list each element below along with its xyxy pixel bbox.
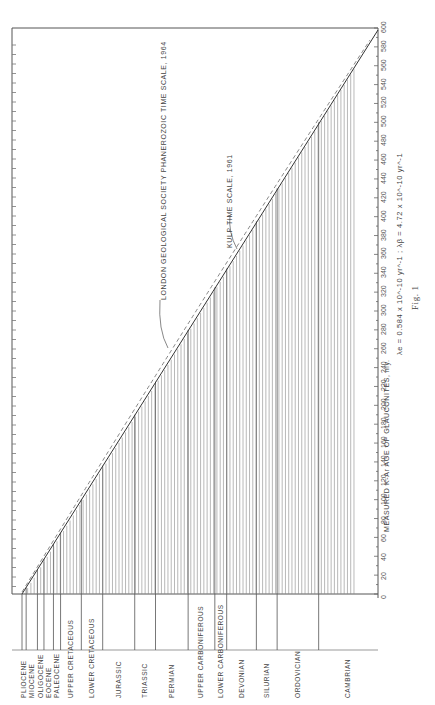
period-label: PLIOCENE: [20, 660, 27, 698]
x-tick-label: 100: [380, 493, 387, 505]
period-label: OLIGOCENE: [37, 654, 44, 698]
london-leader: [160, 300, 168, 348]
x-axis: [374, 28, 378, 598]
x-tick-label: 60: [380, 535, 387, 543]
y-axis-ticks: [12, 45, 16, 587]
x-tick-label: 580: [380, 40, 387, 52]
x-tick-label: 80: [380, 516, 387, 524]
period-label: LOWER CARBONIFEROUS: [217, 604, 224, 698]
period-label: EOCENE: [45, 667, 52, 698]
figure-caption: Fig. 1: [410, 285, 420, 310]
x-tick-label: 460: [380, 153, 387, 165]
x-tick-label: 220: [380, 380, 387, 392]
period-label: ORDOVICIAN: [294, 651, 301, 698]
x-tick-label: 560: [380, 59, 387, 71]
x-tick-label: 160: [380, 436, 387, 448]
decay-constants-label: λe = 0.584 x 10^-10 yr^-1 ; λβ = 4.72 x …: [395, 153, 404, 355]
period-label: CAMBRIAN: [344, 659, 351, 698]
london-time-scale-label: LONDON GEOLOGICAL SOCIETY PHANEROZOIC TI…: [160, 41, 167, 300]
period-label: TRIASSIC: [141, 663, 148, 698]
period-label: PALEOCENE: [53, 653, 60, 698]
period-label: JURASSIC: [115, 661, 122, 698]
period-label: LOWER CRETACEOUS: [88, 618, 95, 698]
glauconite-age-chart: [0, 0, 435, 705]
period-label: DEVONIAN: [238, 659, 245, 698]
x-tick-label: 280: [380, 323, 387, 335]
x-tick-label: 480: [380, 135, 387, 147]
x-tick-label: 20: [380, 572, 387, 580]
x-tick-label: 380: [380, 229, 387, 241]
period-label: SILURIAN: [263, 663, 270, 698]
glauconite-sample-lines: [24, 69, 354, 594]
x-tick-label: 340: [380, 267, 387, 279]
x-tick-label: 320: [380, 285, 387, 297]
plot-frame: [12, 28, 378, 594]
x-tick-label: 120: [380, 474, 387, 486]
x-tick-label: 260: [380, 342, 387, 354]
kulp-time-scale-label: KULP TIME SCALE, 1961: [226, 154, 233, 248]
x-tick-label: 360: [380, 248, 387, 260]
x-tick-label: 500: [380, 116, 387, 128]
period-label: MIOCENE: [28, 663, 35, 698]
x-tick-label: 200: [380, 399, 387, 411]
x-tick-label: 440: [380, 172, 387, 184]
x-tick-label: 300: [380, 304, 387, 316]
x-tick-label: 400: [380, 210, 387, 222]
period-label: UPPER CARBONIFEROUS: [197, 606, 204, 698]
x-tick-label: 0: [380, 595, 387, 599]
x-tick-label: 420: [380, 191, 387, 203]
x-tick-label: 520: [380, 97, 387, 109]
x-tick-label: 40: [380, 553, 387, 561]
x-tick-label: 180: [380, 418, 387, 430]
x-tick-label: 540: [380, 78, 387, 90]
period-label: PERMIAN: [168, 664, 175, 698]
period-label: UPPER CRETACEOUS: [67, 620, 74, 698]
x-tick-label: 600: [380, 21, 387, 33]
x-tick-label: 240: [380, 361, 387, 373]
x-tick-label: 140: [380, 455, 387, 467]
